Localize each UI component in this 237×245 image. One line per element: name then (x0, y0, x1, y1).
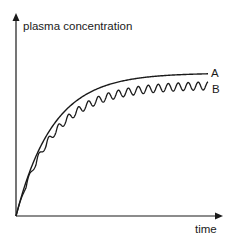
x-axis-arrow-icon (215, 213, 223, 220)
chart-canvas: plasma concentration time A B (0, 0, 237, 245)
series-a-line (16, 74, 208, 216)
x-axis-label: time (195, 223, 217, 235)
y-axis-label: plasma concentration (23, 20, 132, 32)
series-b-label: B (212, 83, 220, 95)
y-axis-arrow-icon (13, 13, 20, 21)
series-a-label: A (211, 67, 219, 79)
series-b-line (16, 82, 208, 216)
